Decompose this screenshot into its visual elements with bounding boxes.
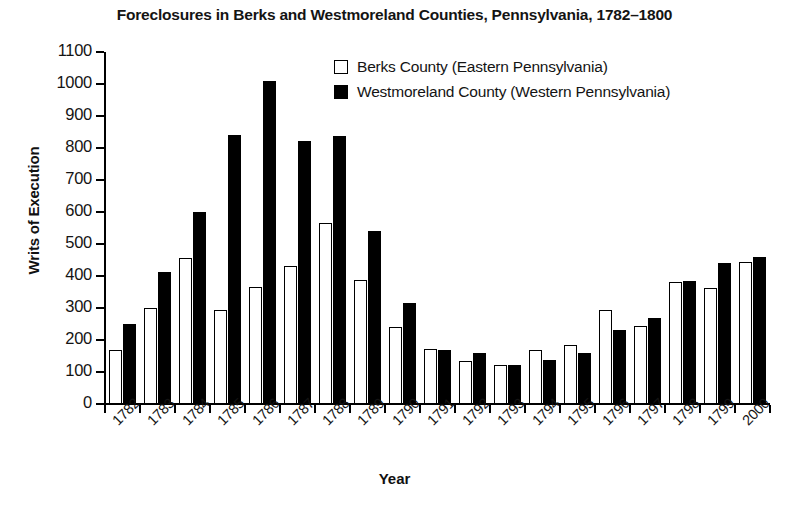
y-tick-label: 1000 bbox=[32, 73, 92, 92]
y-tick bbox=[96, 307, 104, 309]
bar-westmoreland-1799 bbox=[718, 263, 732, 404]
y-tick bbox=[96, 275, 104, 277]
x-axis-title: Year bbox=[0, 470, 789, 487]
bar-berks-1790 bbox=[389, 327, 403, 404]
y-tick bbox=[96, 243, 104, 245]
bar-berks-1782 bbox=[109, 350, 123, 404]
bar-berks-1787 bbox=[284, 266, 298, 404]
y-tick bbox=[96, 371, 104, 373]
bar-berks-1786 bbox=[249, 287, 263, 404]
chart-title: Foreclosures in Berks and Westmoreland C… bbox=[0, 6, 789, 24]
y-tick bbox=[96, 179, 104, 181]
y-axis-title: Writs of Execution bbox=[25, 111, 42, 311]
y-tick bbox=[96, 83, 104, 85]
bar-westmoreland-1784 bbox=[193, 212, 207, 404]
bar-westmoreland-1796 bbox=[613, 330, 627, 404]
bar-westmoreland-1786 bbox=[263, 81, 277, 404]
bar-westmoreland-2000 bbox=[753, 257, 767, 404]
y-tick-label: 1100 bbox=[32, 41, 92, 60]
bar-berks-1783 bbox=[144, 308, 158, 404]
bar-westmoreland-1783 bbox=[158, 272, 172, 404]
y-tick bbox=[96, 51, 104, 53]
y-tick-label: 200 bbox=[32, 329, 92, 348]
bar-berks-1795 bbox=[564, 345, 578, 404]
y-tick bbox=[96, 403, 104, 405]
bar-westmoreland-1785 bbox=[228, 135, 242, 404]
bar-westmoreland-1798 bbox=[683, 281, 697, 404]
bar-westmoreland-1790 bbox=[403, 303, 417, 404]
bar-berks-1793 bbox=[494, 365, 508, 404]
bar-berks-1788 bbox=[319, 223, 333, 404]
y-tick-label: 100 bbox=[32, 361, 92, 380]
bar-westmoreland-1788 bbox=[333, 136, 347, 404]
bar-berks-1799 bbox=[704, 288, 718, 404]
bar-berks-1791 bbox=[424, 349, 438, 404]
bar-westmoreland-1789 bbox=[368, 231, 382, 404]
bar-berks-1789 bbox=[354, 280, 368, 404]
bar-berks-1792 bbox=[459, 361, 473, 404]
y-tick bbox=[96, 115, 104, 117]
bar-berks-2000 bbox=[739, 262, 753, 404]
foreclosures-bar-chart: Foreclosures in Berks and Westmoreland C… bbox=[0, 0, 789, 505]
y-tick bbox=[96, 147, 104, 149]
y-tick bbox=[96, 339, 104, 341]
bar-westmoreland-1797 bbox=[648, 318, 662, 404]
y-tick bbox=[96, 211, 104, 213]
x-tick bbox=[104, 405, 106, 413]
bar-berks-1794 bbox=[529, 350, 543, 404]
bar-berks-1784 bbox=[179, 258, 193, 404]
bar-berks-1785 bbox=[214, 310, 228, 404]
bar-berks-1797 bbox=[634, 326, 648, 404]
bar-westmoreland-1787 bbox=[298, 141, 312, 404]
bar-berks-1796 bbox=[599, 310, 613, 404]
plot-area bbox=[104, 52, 769, 404]
y-tick-label: 0 bbox=[32, 393, 92, 412]
bar-westmoreland-1782 bbox=[123, 324, 137, 404]
bar-berks-1798 bbox=[669, 282, 683, 404]
